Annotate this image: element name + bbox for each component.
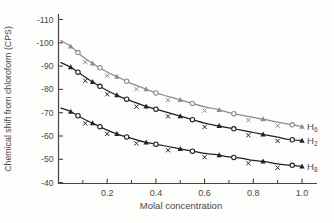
series-H6-curve [61,40,302,126]
series-H8-x-marker [134,141,138,145]
series-label-subscript: 6 [314,126,318,133]
series-H8-circle-marker [154,142,158,146]
series-H2-x-marker [276,139,280,143]
series-label-H6: H6 [307,121,318,133]
y-tick-label: -40 [41,178,54,188]
y-tick-label: -80 [41,84,54,94]
series-H8-circle-marker [290,163,294,167]
series-H2-x-marker [105,92,109,96]
y-axis-title: Chemical shift from chloroform (CPS) [3,26,13,172]
series-H6-circle-marker [290,123,294,127]
series-label-subscript: 8 [314,166,318,173]
series-H2-x-marker [246,133,250,137]
series-H8-x-marker [246,161,250,165]
x-tick-label: 0.6 [198,188,211,198]
y-tick-label: -60 [41,131,54,141]
series-H8-circle-marker [124,135,128,139]
series-H6-circle-marker [232,111,236,115]
series-H6-circle-marker [124,79,128,83]
y-tick-label: -110 [37,15,54,25]
series-H6-circle-marker [190,101,194,105]
chart-svg: -110-100-90-80-70-60-50-400.20.40.60.81.… [0,0,334,223]
series-H2-circle-marker [190,117,194,121]
series-H8-circle-marker [98,124,102,128]
series-H6-x-marker [105,74,109,78]
series-H2-x-marker [166,114,170,118]
series-H8-x-marker [276,166,280,170]
series-H2-circle-marker [290,138,294,142]
x-tick-label: 1.0 [296,188,309,198]
series-H2-circle-marker [98,84,102,88]
series-H2-triangle-marker [90,79,95,84]
series-H2-circle-marker [232,127,236,131]
series-H6-circle-marker [76,50,80,54]
series-H2-circle-marker [124,97,128,101]
series-label-subscript: 2 [314,140,318,147]
series-H2-circle-marker [154,107,158,111]
series-H8-circle-marker [190,149,194,153]
series-H2-x-marker [134,105,138,109]
series-label-H2: H2 [307,135,318,147]
series-H6-x-marker [166,98,170,102]
x-tick-label: 0.4 [150,188,163,198]
series-label-H8: H8 [307,161,318,173]
series-H8-x-marker [105,132,109,136]
series-H6-circle-marker [154,91,158,95]
chart-figure: -110-100-90-80-70-60-50-400.20.40.60.81.… [0,0,334,223]
series-H8-circle-marker [76,114,80,118]
x-axis-title: Molal concentration [140,200,222,211]
series-H8-circle-marker [232,155,236,159]
y-tick-label: -90 [41,61,54,71]
y-tick-label: -100 [36,38,53,48]
series-H8-x-marker [203,155,207,159]
y-tick-label: -50 [41,154,54,164]
series-H2-x-marker [83,79,87,83]
series-H6-triangle-marker [68,43,73,48]
series-H6-x-marker [276,124,280,128]
series-H2-circle-marker [76,70,80,74]
series-H6-x-marker [134,87,138,91]
series-H6-x-marker [246,118,250,122]
x-tick-label: 0.2 [101,188,114,198]
y-tick-label: -70 [41,108,54,118]
series-H6-circle-marker [98,66,102,70]
series-H6-x-marker [83,60,87,64]
x-tick-label: 0.8 [247,188,260,198]
series-H8-x-marker [166,148,170,152]
series-H8-x-marker [83,121,87,125]
series-H2-x-marker [203,125,207,129]
series-H6-x-marker [203,109,207,113]
